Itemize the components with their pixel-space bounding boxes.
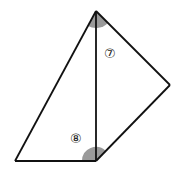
angle-7-label: ⑦ — [104, 46, 116, 61]
angle-8-label: ⑧ — [70, 131, 82, 146]
edge-right-bottommid — [96, 85, 170, 161]
geometry-diagram: ⑦ ⑧ — [0, 0, 181, 173]
edge-top-bottomleft — [15, 11, 96, 161]
